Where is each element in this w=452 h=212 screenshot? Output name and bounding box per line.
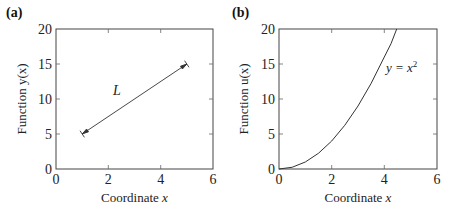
svg-text:6: 6	[210, 172, 217, 187]
y-tick-labels-a: 0 5 10 15 20	[38, 22, 52, 177]
svg-text:6: 6	[434, 172, 441, 187]
length-arrow	[80, 61, 189, 138]
panel-b: (b) 0 2 4 6 0 5 10 15 20 Coordinate x Fu…	[232, 5, 441, 205]
svg-text:5: 5	[268, 127, 275, 142]
svg-text:5: 5	[45, 127, 52, 142]
panel-a-tag: (a)	[6, 5, 23, 21]
figure: (a) 0 2 4 6 0 5 10 15 20 Coordinate x Fu…	[0, 0, 452, 212]
svg-text:10: 10	[38, 92, 52, 107]
x-tick-labels-a: 0 2 4 6	[53, 172, 217, 187]
curve-label: y = x2	[384, 59, 417, 75]
svg-text:0: 0	[276, 172, 283, 187]
svg-text:0: 0	[45, 162, 52, 177]
svg-text:10: 10	[261, 92, 275, 107]
svg-text:15: 15	[261, 57, 275, 72]
svg-text:2: 2	[328, 172, 335, 187]
svg-text:20: 20	[38, 22, 52, 37]
svg-text:4: 4	[381, 172, 388, 187]
x-axis-label-a: Coordinate x	[101, 190, 168, 205]
y-axis-label-a: Function y(x)	[14, 63, 29, 134]
y-axis-label-b: Function u(x)	[236, 63, 251, 134]
x-axis-label-b: Coordinate x	[325, 190, 392, 205]
ticks-b	[279, 29, 437, 169]
svg-text:4: 4	[157, 172, 164, 187]
arrow-label-L: L	[112, 83, 121, 98]
svg-text:2: 2	[105, 172, 112, 187]
plot-frame-b	[279, 29, 437, 169]
svg-text:15: 15	[38, 57, 52, 72]
x-tick-labels-b: 0 2 4 6	[276, 172, 441, 187]
svg-text:0: 0	[268, 162, 275, 177]
panel-b-tag: (b)	[232, 5, 249, 21]
svg-text:0: 0	[53, 172, 60, 187]
parabola-curve	[279, 29, 397, 169]
y-tick-labels-b: 0 5 10 15 20	[261, 22, 275, 177]
svg-text:20: 20	[261, 22, 275, 37]
panel-a: (a) 0 2 4 6 0 5 10 15 20 Coordinate x Fu…	[6, 5, 217, 205]
